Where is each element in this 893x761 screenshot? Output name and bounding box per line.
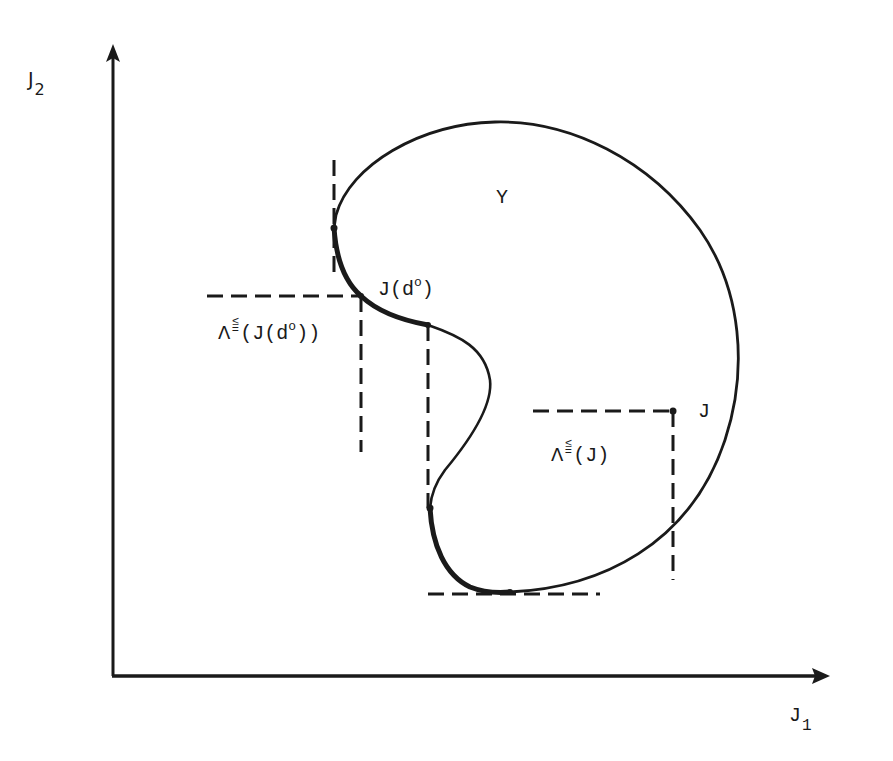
optimal-cone-label: Λ≤=(J(do)) bbox=[218, 318, 320, 344]
leq-relation-symbol: ≤= bbox=[230, 318, 240, 335]
attainable-set-boundary bbox=[331, 122, 739, 595]
general-point-label: J bbox=[698, 402, 710, 422]
y-axis-label: J2 bbox=[28, 70, 45, 89]
x-axis bbox=[112, 668, 830, 684]
diagram-canvas bbox=[0, 0, 893, 761]
x-axis-label: J1 bbox=[789, 706, 812, 726]
point-j-marker bbox=[670, 408, 677, 415]
dashed-guides bbox=[207, 160, 673, 594]
optimal-point-label: J(do) bbox=[378, 280, 434, 300]
y-axis bbox=[106, 44, 120, 676]
pareto-diagram: J2 J1 Y J(do) Λ≤=(J(do)) J Λ≤=(J) bbox=[0, 0, 893, 761]
leq-relation-symbol: ≤= bbox=[563, 440, 573, 457]
general-cone-label: Λ≤=(J) bbox=[551, 440, 609, 466]
region-y-label: Y bbox=[496, 188, 508, 208]
